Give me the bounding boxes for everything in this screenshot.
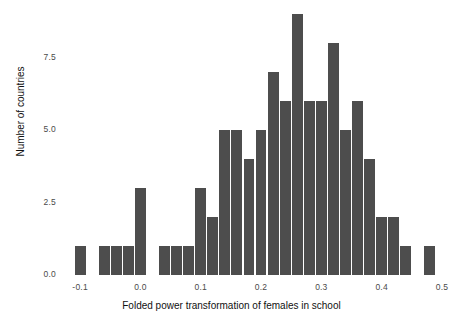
y-tick-label: 5.0 (44, 124, 56, 134)
histogram-bar (111, 246, 122, 275)
histogram-bar (352, 101, 363, 275)
x-axis-tick-labels: -0.10.00.10.20.30.40.5 (0, 282, 463, 296)
histogram-chart: 0.02.55.07.5 -0.10.00.10.20.30.40.5 Fold… (0, 0, 463, 331)
x-tick-label: 0.4 (375, 282, 387, 292)
x-tick-label: 0.1 (195, 282, 207, 292)
histogram-bar (304, 101, 315, 275)
histogram-bar (159, 246, 170, 275)
histogram-bar (388, 217, 399, 275)
histogram-bar (280, 101, 291, 275)
histogram-bars (62, 14, 448, 275)
histogram-bar (256, 130, 267, 275)
histogram-bar (135, 188, 146, 275)
histogram-bar (75, 246, 86, 275)
y-tick-label: 2.5 (44, 197, 56, 207)
x-tick-label: 0.3 (315, 282, 327, 292)
histogram-bar (364, 159, 375, 275)
histogram-bar (424, 246, 435, 275)
histogram-bar (400, 246, 411, 275)
histogram-bar (292, 14, 303, 275)
x-tick-label: 0.0 (134, 282, 146, 292)
histogram-bar (268, 72, 279, 275)
histogram-bar (376, 217, 387, 275)
histogram-bar (183, 246, 194, 275)
histogram-bar (219, 130, 230, 275)
histogram-bar (244, 159, 255, 275)
histogram-bar (99, 246, 110, 275)
histogram-bar (207, 217, 218, 275)
histogram-bar (328, 43, 339, 275)
histogram-bar (123, 246, 134, 275)
histogram-bar (231, 130, 242, 275)
x-tick-label: -0.1 (72, 282, 87, 292)
x-tick-label: 0.5 (436, 282, 448, 292)
histogram-bar (316, 101, 327, 275)
x-axis-title: Folded power transformation of females i… (0, 300, 463, 311)
histogram-bar (171, 246, 182, 275)
histogram-bar (340, 130, 351, 275)
histogram-bar (195, 188, 206, 275)
x-tick-label: 0.2 (255, 282, 267, 292)
y-axis-title: Number of countries (15, 32, 26, 192)
y-tick-label: 7.5 (44, 52, 56, 62)
y-tick-label: 0.0 (44, 269, 56, 279)
plot-area (62, 14, 448, 275)
